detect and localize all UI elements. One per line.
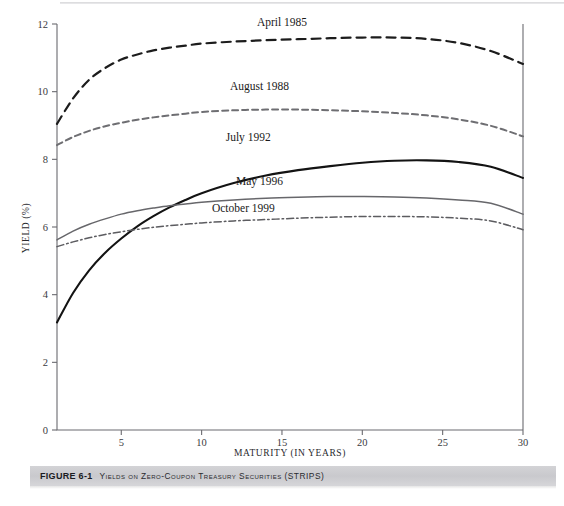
series-line-april-1985 [57, 37, 523, 123]
series-label-july-1992: July 1992 [226, 131, 271, 144]
y-tick-label: 4 [43, 289, 49, 300]
chart-plot-area: 02468101251015202530 April 1985August 19… [0, 0, 564, 460]
x-tick-label: 25 [437, 437, 448, 448]
y-axis-title: YIELD (%) [21, 203, 32, 254]
series-label-august-1988: August 1988 [230, 80, 289, 93]
figure-caption-number: FIGURE 6-1 [40, 471, 93, 481]
x-tick-label: 15 [277, 437, 288, 448]
x-tick-label: 5 [119, 437, 124, 448]
y-tick-label: 0 [43, 425, 48, 436]
y-tick-label: 8 [43, 154, 48, 165]
series-labels-group: April 1985August 1988July 1992May 1996Oc… [212, 16, 307, 214]
yield-curve-chart: 02468101251015202530 April 1985August 19… [0, 0, 564, 460]
series-line-august-1988 [57, 110, 523, 146]
caption-shadow [30, 486, 556, 489]
x-axis-title: MATURITY (IN YEARS) [234, 448, 346, 459]
y-tick-label: 12 [38, 19, 49, 30]
x-tick-label: 30 [518, 437, 529, 448]
figure-caption-bar: FIGURE 6-1 Yields on Zero-Coupon Treasur… [30, 466, 556, 486]
x-tick-label: 20 [357, 437, 368, 448]
y-tick-label: 2 [43, 357, 48, 368]
chart-frame [57, 24, 523, 430]
figure-caption-title: Yields on Zero-Coupon Treasury Securitie… [100, 471, 325, 481]
y-tick-label: 10 [38, 86, 49, 97]
series-label-april-1985: April 1985 [257, 16, 307, 29]
series-group [57, 37, 523, 322]
series-label-october-1999: October 1999 [212, 202, 275, 214]
series-line-july-1992 [57, 160, 523, 322]
series-label-may-1996: May 1996 [236, 175, 283, 188]
series-line-october-1999 [57, 216, 523, 246]
y-tick-label: 6 [43, 222, 48, 233]
x-tick-label: 10 [196, 437, 207, 448]
figure-container: 02468101251015202530 April 1985August 19… [0, 0, 564, 506]
